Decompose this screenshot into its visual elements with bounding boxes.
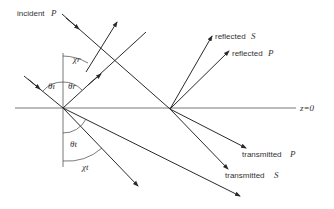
reflected-ray-arrow (88, 74, 101, 85)
transmitted-p-label: transmitted (242, 150, 282, 159)
incident-p-arrow (66, 18, 79, 29)
reflected-s-ray (170, 36, 212, 109)
chi-t-arc (63, 148, 102, 161)
incident-pol-label: P (50, 8, 57, 18)
theta-t-arc (63, 119, 86, 133)
transmitted-s-ray (170, 109, 228, 169)
transmitted-s-label: transmitted (225, 171, 265, 180)
reflected-p-pol-label: P (267, 48, 274, 58)
transmitted-long-ray (63, 108, 240, 196)
reflected-ray (63, 32, 146, 108)
chi-r-label: χr (72, 54, 81, 64)
chi-t-label: χt (81, 162, 89, 172)
optics-diagram: z=0 incident P θi θr χr θt χt reflected … (0, 0, 334, 209)
incident-label: incident (17, 9, 45, 18)
reflected-s-pol-label: S (251, 31, 256, 41)
transmitted-p-pol-label: P (289, 149, 296, 159)
theta-i-label: θi (48, 81, 55, 91)
reflected-p-label: reflected (232, 49, 263, 58)
incident-ray-arrow (28, 79, 40, 89)
theta-r-label: θr (68, 81, 76, 91)
reflected-s-label: reflected (215, 32, 246, 41)
transmitted-p-ray (170, 109, 246, 148)
reflected-p-ray (170, 51, 229, 109)
chi-r-vector (86, 22, 117, 72)
transmitted-s-pol-label: S (274, 170, 279, 180)
theta-t-label: θt (70, 139, 77, 149)
interface-label: z=0 (299, 103, 315, 113)
